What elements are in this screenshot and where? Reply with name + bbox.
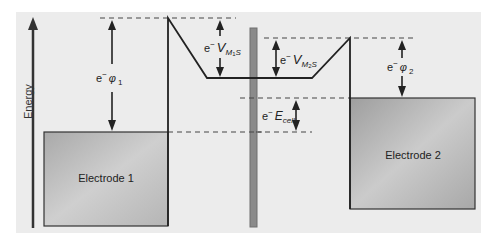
energy-axis bbox=[28, 17, 38, 228]
potential-profile bbox=[168, 18, 350, 226]
electrode-2-label: Electrode 2 bbox=[385, 149, 441, 161]
vm2s-label: e−VM2S bbox=[280, 52, 317, 69]
separator-bar bbox=[250, 28, 257, 227]
phi2-label: e−φ2 bbox=[387, 59, 414, 76]
electrode-1-label: Electrode 1 bbox=[78, 172, 134, 184]
phi1-label: e−φ1 bbox=[96, 70, 123, 87]
vm1s-label: e−VM1S bbox=[204, 40, 241, 57]
energy-axis-label: Energy bbox=[22, 84, 34, 119]
ecell-label: e−Ecell bbox=[262, 108, 295, 125]
energy-diagram: e−φ1 e−VM1S e−VM2S e−φ2 e−Ecell Electrod… bbox=[0, 0, 497, 240]
arrow-up-icon bbox=[28, 17, 38, 30]
